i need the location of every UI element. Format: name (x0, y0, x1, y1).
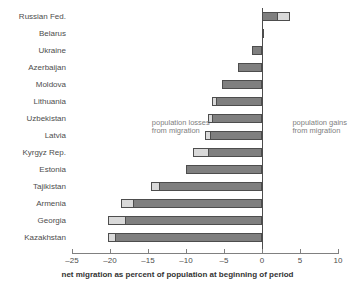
bar-row (0, 97, 355, 106)
x-axis-title: net migration as percent of population a… (0, 270, 355, 279)
bar-segment-dark (222, 80, 262, 89)
bar-row (0, 148, 355, 157)
migration-bar-chart: Russian Fed. Belarus Ukraine Azerbaijan … (0, 0, 355, 289)
chart-annotation: population losses from migration (152, 119, 210, 136)
bar-row (0, 182, 355, 191)
bar-row (0, 165, 355, 174)
bar-row (0, 63, 355, 72)
bar-segment-dark (216, 97, 262, 106)
x-axis-tick-label: 0 (247, 256, 277, 265)
x-axis-tick-label: 5 (285, 256, 315, 265)
x-axis-tick (148, 249, 149, 253)
x-axis-tick-label: –15 (133, 256, 163, 265)
bar-segment-dark (262, 12, 278, 21)
chart-annotation: population gains from migration (292, 119, 347, 136)
bar-row (0, 29, 355, 38)
x-axis-tick (338, 249, 339, 253)
bar-row (0, 46, 355, 55)
plot-area (0, 0, 355, 289)
bar-row (0, 199, 355, 208)
bar-row (0, 216, 355, 225)
bar-segment-dark (186, 165, 262, 174)
x-axis-tick-label: –25 (57, 256, 87, 265)
bar-segment-dark (159, 182, 262, 191)
x-axis-tick-label: –10 (171, 256, 201, 265)
x-axis-tick (72, 249, 73, 253)
x-axis-line (72, 253, 339, 254)
bar-segment-dark (238, 63, 262, 72)
x-axis-tick-label: –5 (209, 256, 239, 265)
bar-segment-dark (212, 114, 262, 123)
x-axis-tick (224, 249, 225, 253)
x-axis-tick (186, 249, 187, 253)
x-axis-tick-label: 10 (323, 256, 353, 265)
bar-segment-dark (133, 199, 262, 208)
bar-segment-dark (262, 29, 264, 38)
bar-segment-dark (125, 216, 262, 225)
bar-segment-dark (252, 46, 262, 55)
bar-segment-dark (115, 233, 262, 242)
bar-segment-dark (210, 131, 262, 140)
x-axis-tick (262, 249, 263, 253)
bar-segment-dark (208, 148, 262, 157)
x-axis-tick (300, 249, 301, 253)
bar-row (0, 233, 355, 242)
x-axis-tick (110, 249, 111, 253)
bar-row (0, 80, 355, 89)
bar-row (0, 12, 355, 21)
x-axis-tick-label: –20 (95, 256, 125, 265)
